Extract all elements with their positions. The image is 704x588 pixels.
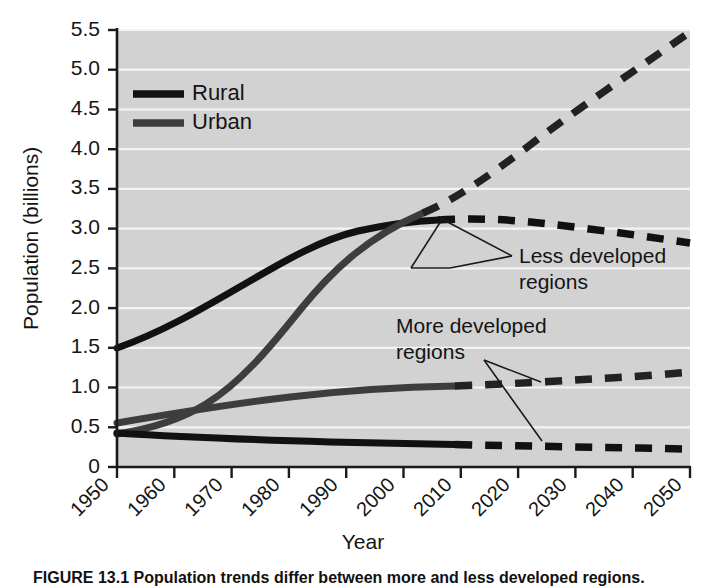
x-tick-label: 2020 <box>467 473 514 520</box>
x-tick-label: 2000 <box>352 473 399 520</box>
x-tick-label: 2010 <box>409 473 456 520</box>
y-tick-label: 5.5 <box>71 17 100 40</box>
y-tick-label: 2.0 <box>71 295 100 318</box>
x-tick-label: 1970 <box>180 473 227 520</box>
x-tick-label: 1960 <box>123 473 170 520</box>
annotation-less-developed-line2: regions <box>519 270 588 293</box>
y-tick-label: 0 <box>88 454 100 477</box>
x-axis-title: Year <box>342 530 384 553</box>
annotation-more-developed-line1: More developed <box>396 314 547 337</box>
y-tick-label: 1.5 <box>71 334 100 357</box>
legend-label-urban: Urban <box>192 109 252 134</box>
legend-label-rural: Rural <box>192 80 245 105</box>
y-tick-label: 4.0 <box>71 136 100 159</box>
x-tick-marks <box>117 467 690 478</box>
y-axis-title: Population (billions) <box>19 147 42 330</box>
y-tick-label: 4.5 <box>71 96 100 119</box>
y-tick-label: 1.0 <box>71 374 100 397</box>
x-tick-label: 2040 <box>581 473 628 520</box>
y-tick-label: 2.5 <box>71 255 100 278</box>
y-tick-label: 3.5 <box>71 175 100 198</box>
annotation-less-developed-line1: Less developed <box>519 244 666 267</box>
annotation-more-developed-line2: regions <box>396 340 465 363</box>
figure-caption: FIGURE 13.1 Population trends differ bet… <box>33 567 693 588</box>
x-tick-label: 1990 <box>295 473 342 520</box>
y-tick-label: 5.0 <box>71 56 100 79</box>
y-tick-label: 3.0 <box>71 215 100 238</box>
x-tick-label: 2050 <box>639 473 686 520</box>
x-tick-label: 2030 <box>524 473 571 520</box>
y-tick-label: 0.5 <box>71 414 100 437</box>
x-tick-label: 1950 <box>66 473 113 520</box>
y-tick-marks <box>108 30 117 467</box>
x-tick-label: 1980 <box>237 473 284 520</box>
